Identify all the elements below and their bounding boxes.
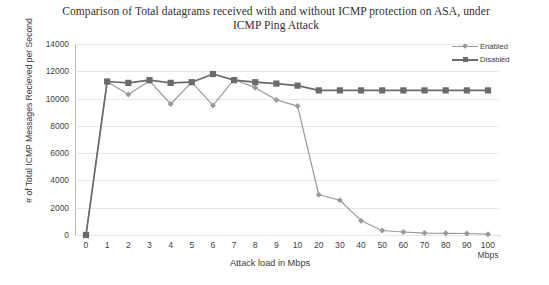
data-point-enabled bbox=[485, 231, 491, 237]
data-point-enabled bbox=[316, 192, 322, 198]
data-point-disabled bbox=[485, 87, 491, 93]
chart-container: Comparison of Total datagrams received w… bbox=[0, 0, 549, 285]
data-point-enabled bbox=[252, 85, 258, 91]
data-point-disabled bbox=[443, 87, 449, 93]
data-point-disabled bbox=[231, 77, 237, 83]
legend-item-disabled[interactable]: Disabled bbox=[452, 53, 510, 66]
data-point-disabled bbox=[400, 87, 406, 93]
data-point-enabled bbox=[295, 103, 301, 109]
data-point-disabled bbox=[252, 79, 258, 85]
data-point-disabled bbox=[421, 87, 427, 93]
data-point-disabled bbox=[294, 83, 300, 89]
data-point-enabled bbox=[443, 230, 449, 236]
data-point-disabled bbox=[464, 87, 470, 93]
data-point-disabled bbox=[146, 77, 152, 83]
legend-label: Enabled bbox=[480, 42, 508, 51]
data-point-disabled bbox=[168, 80, 174, 86]
chart-legend: EnabledDisabled bbox=[452, 40, 510, 66]
x-axis-tick-label: 100Mbps bbox=[473, 240, 503, 260]
data-point-disabled bbox=[337, 87, 343, 93]
series-line-disabled bbox=[86, 74, 488, 235]
data-point-disabled bbox=[210, 71, 216, 77]
data-point-enabled bbox=[379, 227, 385, 233]
data-point-disabled bbox=[125, 80, 131, 86]
data-point-disabled bbox=[358, 87, 364, 93]
legend-marker-icon bbox=[452, 55, 478, 64]
data-point-disabled bbox=[316, 87, 322, 93]
data-point-disabled bbox=[379, 87, 385, 93]
series-line-enabled bbox=[86, 79, 488, 235]
legend-label: Disabled bbox=[480, 55, 510, 64]
data-point-disabled bbox=[273, 80, 279, 86]
x-axis-title: Attack load in Mbps bbox=[60, 258, 480, 268]
data-point-enabled bbox=[125, 91, 131, 97]
data-point-enabled bbox=[400, 229, 406, 235]
data-point-enabled bbox=[464, 230, 470, 236]
data-point-disabled bbox=[104, 78, 110, 84]
data-point-disabled bbox=[83, 232, 89, 238]
legend-marker-icon bbox=[452, 42, 478, 51]
data-point-disabled bbox=[189, 79, 195, 85]
data-point-enabled bbox=[422, 230, 428, 236]
legend-item-enabled[interactable]: Enabled bbox=[452, 40, 510, 53]
data-point-enabled bbox=[273, 97, 279, 103]
